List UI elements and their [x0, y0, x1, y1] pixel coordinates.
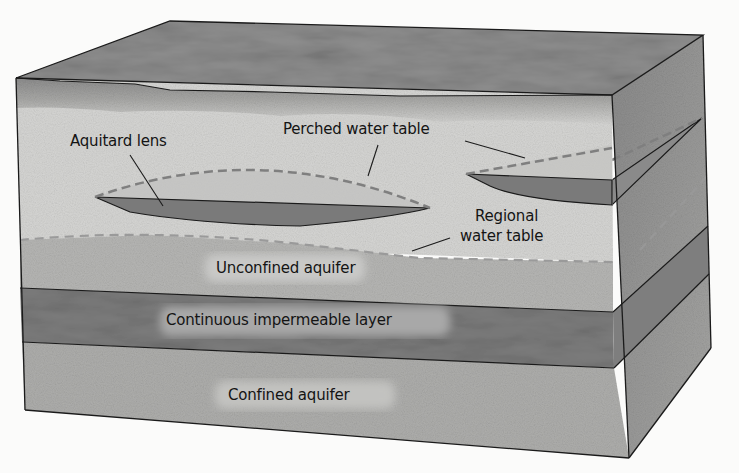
label-regional-water-table-2: water table: [460, 228, 543, 245]
label-confined-aquifer: Confined aquifer: [228, 387, 350, 404]
aquifer-block-diagram: [0, 0, 739, 473]
label-impermeable-layer: Continuous impermeable layer: [166, 312, 392, 329]
label-unconfined-aquifer: Unconfined aquifer: [216, 260, 355, 277]
label-regional-water-table-1: Regional: [475, 208, 538, 225]
label-aquitard-lens: Aquitard lens: [70, 133, 167, 150]
label-perched-water-table: Perched water table: [283, 121, 430, 138]
